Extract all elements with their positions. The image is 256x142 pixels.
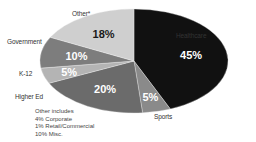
- pie-value-healthcare: 45%: [180, 49, 202, 61]
- label-sports: Sports: [154, 113, 172, 120]
- label-government: Government: [7, 38, 42, 45]
- label-k12: K-12: [19, 70, 32, 77]
- footnote-line-corporate: 4% Corporate: [35, 116, 94, 124]
- pie-value-other: 18%: [93, 28, 115, 40]
- footnote-line-retail: 1% Retail/Commercial: [35, 123, 94, 131]
- pie-value-higher-ed: 20%: [94, 83, 116, 95]
- footnote-title: Other includes: [35, 108, 94, 116]
- label-healthcare: Healthcare: [176, 32, 206, 39]
- pie-value-sports: 5%: [142, 91, 158, 103]
- footnote-line-misc: 10% Misc.: [35, 131, 94, 139]
- label-higher-ed: Higher Ed: [15, 93, 43, 100]
- pie-value-government: 10%: [65, 50, 87, 62]
- pie-value-k-12: 5%: [61, 66, 77, 78]
- footnote-legend: Other includes 4% Corporate 1% Retail/Co…: [35, 108, 94, 138]
- label-other: Other*: [72, 10, 90, 17]
